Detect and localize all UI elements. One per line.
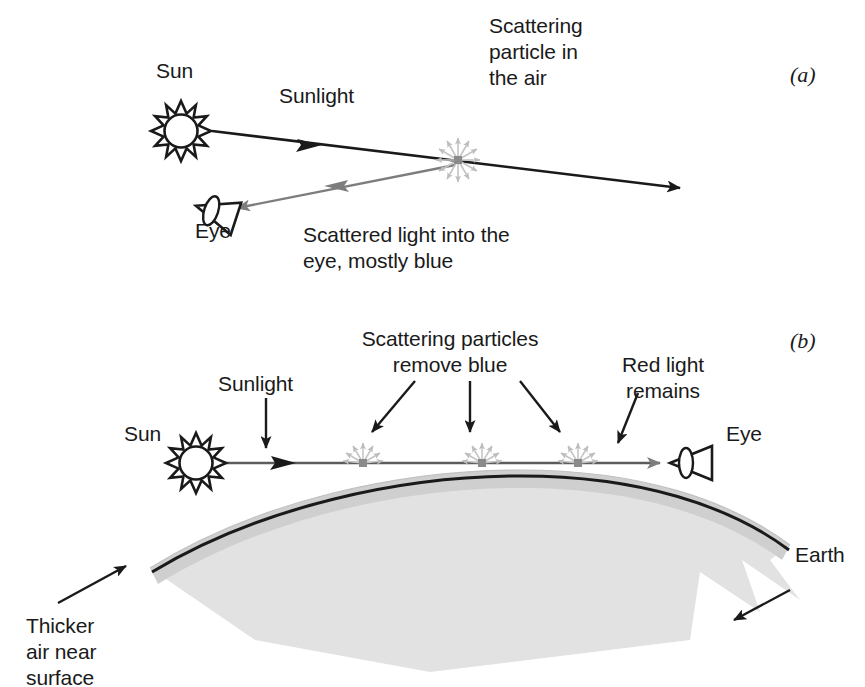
panel-b-remove-blue-label: Scattering particles remove blue xyxy=(330,326,570,378)
panel-a-sun-label: Sun xyxy=(156,58,193,84)
panel-b-graphics xyxy=(58,381,800,672)
scattering-particle-icon xyxy=(436,138,480,182)
remove-blue-leader-right xyxy=(520,381,560,432)
eye-icon xyxy=(670,446,712,480)
panel-b-thicker-air-label: Thicker air near surface xyxy=(26,613,96,687)
sunlight-ray-a-midhead xyxy=(296,139,322,152)
panel-b-eye-label: Eye xyxy=(726,421,762,447)
panel-b-earth-label: Earth xyxy=(795,542,845,568)
remove-blue-leader-left xyxy=(372,381,415,432)
thicker-air-leader xyxy=(58,566,126,603)
scattered-ray-a xyxy=(237,165,455,208)
sun-icon xyxy=(151,101,211,161)
panel-a-scattered-label: Scattered light into the eye, mostly blu… xyxy=(303,222,510,274)
panel-a-sunlight-label: Sunlight xyxy=(279,83,354,109)
panel-b-sun-label: Sun xyxy=(124,421,161,447)
panel-a-graphics xyxy=(151,101,680,235)
sun-icon xyxy=(166,433,226,493)
panel-b-sunlight-label: Sunlight xyxy=(218,371,293,397)
panel-a-eye-label: Eye xyxy=(195,218,231,244)
panel-a-particle-label: Scattering particle in the air xyxy=(489,13,583,91)
panel-b-red-light-label: Red light remains xyxy=(600,352,726,404)
panel-b-tag: (b) xyxy=(790,328,816,354)
scattering-figure: Sun Sunlight Scattering particle in the … xyxy=(0,0,865,687)
panel-a-tag: (a) xyxy=(790,62,816,88)
